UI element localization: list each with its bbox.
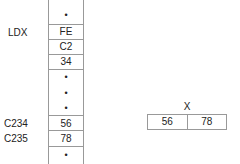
memory-cell: C2 — [48, 39, 84, 54]
ellipsis-dot: • — [48, 88, 84, 98]
memory-cell: 34 — [48, 54, 84, 69]
instruction-label: LDX — [8, 25, 27, 40]
address-label: C235 — [4, 131, 28, 146]
ellipsis-dot: • — [48, 150, 84, 160]
register-box: 56 78 — [147, 114, 227, 130]
memory-cell: 78 — [48, 131, 84, 146]
ellipsis-dot: • — [48, 10, 84, 20]
address-label: C234 — [4, 116, 28, 131]
divider — [48, 146, 84, 147]
memory-cell: 56 — [48, 116, 84, 131]
register-label: X — [147, 101, 227, 113]
register-high-byte: 56 — [148, 115, 187, 129]
register-low-byte: 78 — [187, 115, 227, 129]
ellipsis-dot: • — [48, 72, 84, 82]
divider — [48, 69, 84, 70]
memory-cell: FE — [48, 24, 84, 39]
ellipsis-dot: • — [48, 103, 84, 113]
